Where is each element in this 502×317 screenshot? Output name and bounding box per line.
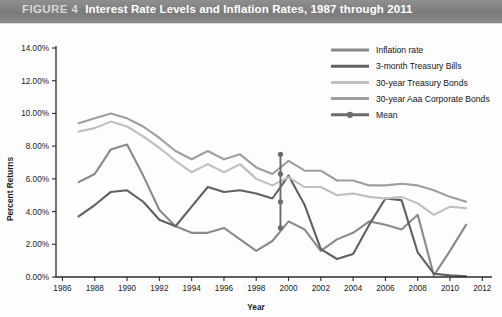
x-tick-label: 1988	[86, 284, 105, 293]
line-chart: 0.00%2.00%4.00%6.00%8.00%10.00%12.00%14.…	[0, 24, 502, 317]
x-tick-label: 2010	[441, 284, 460, 293]
mean-marker-dot	[278, 171, 283, 176]
x-tick-label: 1996	[215, 284, 234, 293]
legend-label: 3-month Treasury Bills	[376, 61, 462, 71]
mean-marker-dot	[278, 199, 283, 204]
figure-title-bar: FIGURE 4 Interest Rate Levels and Inflat…	[0, 0, 502, 23]
x-tick-label: 1990	[118, 284, 137, 293]
y-tick-label: 0.00%	[26, 273, 49, 282]
legend-label: 30-year Aaa Corporate Bonds	[376, 94, 490, 104]
figure-container: FIGURE 4 Interest Rate Levels and Inflat…	[0, 0, 502, 317]
y-tick-label: 14.00%	[21, 44, 49, 53]
figure-number-label: FIGURE 4	[22, 3, 78, 15]
figure-title-text: Interest Rate Levels and Inflation Rates…	[85, 3, 412, 15]
y-tick-label: 6.00%	[26, 175, 49, 184]
mean-marker-dot	[278, 152, 283, 157]
x-tick-label: 2012	[473, 284, 492, 293]
y-axis-title: Percent Returns	[5, 157, 15, 221]
y-tick-label: 4.00%	[26, 208, 49, 217]
y-tick-label: 2.00%	[26, 240, 49, 249]
x-tick-label: 1986	[53, 284, 72, 293]
x-tick-label: 2002	[312, 284, 331, 293]
y-tick-label: 12.00%	[21, 77, 49, 86]
x-tick-label: 2008	[409, 284, 428, 293]
x-axis-title: Year	[247, 302, 265, 312]
x-tick-label: 1998	[247, 284, 266, 293]
x-tick-label: 2006	[376, 284, 395, 293]
legend-label: Inflation rate	[376, 45, 424, 55]
x-tick-label: 1992	[150, 284, 169, 293]
legend-label: 30-year Treasury Bonds	[376, 78, 468, 88]
x-tick-label: 2000	[279, 284, 298, 293]
mean-marker-dot	[278, 225, 283, 230]
x-tick-label: 1994	[183, 284, 202, 293]
x-tick-label: 2004	[344, 284, 363, 293]
figure-title-group: FIGURE 4 Interest Rate Levels and Inflat…	[22, 3, 413, 15]
legend-label: Mean	[376, 110, 398, 120]
y-tick-label: 8.00%	[26, 142, 49, 151]
y-tick-label: 10.00%	[21, 109, 49, 118]
